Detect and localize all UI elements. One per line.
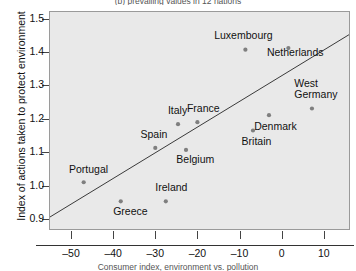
- data-point: [195, 120, 199, 124]
- data-point: [82, 180, 86, 184]
- point-label: Denmark: [254, 121, 297, 132]
- x-tick-label: –20: [177, 247, 217, 259]
- y-tick-label: 1.1: [4, 146, 44, 156]
- x-tick-mark: [324, 231, 325, 239]
- point-label: Britain: [242, 136, 272, 147]
- y-tick-label: 1.5: [4, 13, 44, 23]
- x-tick-mark: [240, 231, 241, 239]
- point-label: Ireland: [155, 182, 187, 193]
- x-tick-label: –50: [51, 247, 91, 259]
- x-tick-mark: [197, 231, 198, 239]
- point-label: Portugal: [69, 164, 108, 175]
- plot-canvas: [50, 12, 349, 229]
- data-point: [243, 48, 247, 52]
- x-tick-mark: [155, 231, 156, 239]
- x-axis-label: Consumer index, environment vs. pollutio…: [0, 262, 356, 271]
- point-label: Luxembourg: [214, 30, 272, 41]
- x-tick-mark: [71, 231, 72, 239]
- y-tick-label: 1.3: [4, 79, 44, 89]
- point-label: France: [187, 103, 220, 114]
- x-tick-mark: [282, 231, 283, 239]
- data-point: [164, 199, 168, 203]
- x-tick-label: –40: [93, 247, 133, 259]
- point-label: Spain: [141, 129, 168, 140]
- x-tick-label: –30: [135, 247, 175, 259]
- y-tick-label: 1.2: [4, 113, 44, 123]
- point-label: Netherlands: [267, 47, 324, 58]
- data-point: [267, 113, 271, 117]
- data-point: [184, 148, 188, 152]
- point-label: Belgium: [176, 154, 214, 165]
- y-tick-label: 1.0: [4, 180, 44, 190]
- data-point: [176, 122, 180, 126]
- point-label: Italy: [168, 105, 187, 116]
- x-axis-line: [36, 245, 354, 246]
- x-tick-label: 0: [262, 247, 302, 259]
- data-point: [153, 146, 157, 150]
- trend-line: [50, 35, 349, 217]
- x-tick-label: –10: [220, 247, 260, 259]
- chart-title: (b) prevailing values in 12 nations: [0, 0, 356, 5]
- data-point: [310, 106, 314, 110]
- x-tick-label: 10: [304, 247, 344, 259]
- plot-area: PortugalGreeceSpainIrelandItalyBelgiumFr…: [49, 11, 350, 230]
- point-label: WestGermany: [294, 78, 337, 101]
- x-tick-mark: [113, 231, 114, 239]
- data-point: [119, 199, 123, 203]
- y-tick-label: 0.9: [4, 213, 44, 223]
- y-tick-label: 1.4: [4, 46, 44, 56]
- point-label: Greece: [113, 206, 147, 217]
